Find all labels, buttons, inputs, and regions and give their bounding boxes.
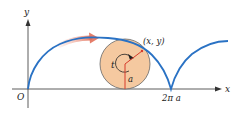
x-axis-label: x (225, 84, 230, 94)
point-xy-marker (141, 50, 143, 52)
rolling-circle (100, 39, 150, 89)
x-axis-arrow-icon (215, 87, 222, 92)
y-axis-arrow-icon (26, 19, 31, 26)
origin-label: O (17, 92, 25, 102)
angle-label: t (111, 60, 115, 70)
point-label: (x, y) (143, 36, 165, 46)
radius-label: a (128, 74, 133, 84)
cusp-label: 2π a (161, 93, 181, 103)
cycloid-diagram: y x O 2π a t a (x, y) (0, 0, 237, 114)
y-axis-label: y (23, 7, 30, 17)
